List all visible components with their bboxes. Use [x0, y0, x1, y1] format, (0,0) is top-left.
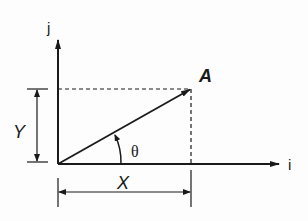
- j-axis-label: j: [46, 19, 50, 36]
- theta-label: θ: [131, 143, 139, 160]
- vector-diagram: j i A θ Y X: [0, 0, 308, 221]
- vector-a-label: A: [198, 66, 212, 86]
- theta-arc: [115, 135, 121, 164]
- y-component-label: Y: [13, 122, 27, 142]
- diagram-svg: j i A θ Y X: [0, 0, 308, 221]
- i-axis-label: i: [288, 156, 291, 173]
- vector-a-arrow: [58, 90, 190, 165]
- x-component-label: X: [116, 173, 130, 193]
